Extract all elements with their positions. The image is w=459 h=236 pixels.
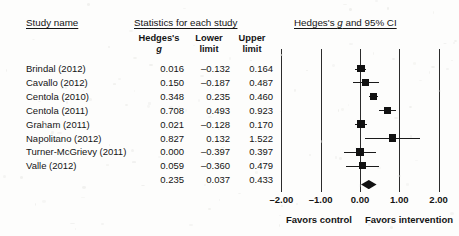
lower-limit-cell: –0.128 <box>186 119 230 130</box>
effect-marker <box>362 79 369 86</box>
lower-limit-cell: 0.235 <box>186 91 230 102</box>
plot-title-suffix: and 95% CI <box>343 17 397 28</box>
summary-diamond <box>361 175 377 184</box>
gridline <box>321 49 322 187</box>
effect-size-cell: 0.827 <box>134 133 184 144</box>
effect-marker <box>389 134 396 141</box>
forest-plot-area: –2.00–1.000.001.002.00 <box>255 40 459 236</box>
favors-intervention-label: Favors intervention <box>357 214 459 225</box>
header-statistics: Statistics for each study <box>134 17 237 28</box>
lower-limit-cell: –0.187 <box>186 77 230 88</box>
effect-size-cell: 0.000 <box>134 146 184 157</box>
plot-title-prefix: Hedges's <box>294 17 337 28</box>
axis-tick <box>439 187 440 192</box>
effect-marker <box>357 120 364 127</box>
effect-size-cell: 0.348 <box>134 91 184 102</box>
effect-size-cell: 0.059 <box>134 160 184 171</box>
study-name-cell: Cavallo (2012) <box>26 77 88 88</box>
lower-limit-cell: 0.132 <box>186 133 230 144</box>
study-name-cell: Graham (2011) <box>26 119 90 130</box>
lower-limit-cell: –0.360 <box>186 160 230 171</box>
effect-marker <box>384 107 391 114</box>
axis-tick-label: 2.00 <box>415 194 459 205</box>
header-plot-title: Hedges's g and 95% CI <box>294 17 397 28</box>
lower-limit-cell: –0.132 <box>186 63 230 74</box>
effect-marker <box>359 162 366 169</box>
forest-plot-figure: Study name Statistics for each study Hed… <box>0 0 459 236</box>
effect-marker <box>357 65 365 73</box>
effect-size-cell: 0.235 <box>134 174 184 185</box>
effect-marker <box>370 93 377 100</box>
study-name-cell: Centola (2010) <box>26 91 89 102</box>
axis-tick <box>399 187 400 192</box>
axis-tick <box>321 187 322 192</box>
study-name-cell: Turner-McGrievy (2011) <box>26 146 126 157</box>
column-head-lower-2: limit <box>188 44 230 55</box>
gridline <box>281 49 282 187</box>
lower-limit-cell: 0.493 <box>186 105 230 116</box>
effect-size-cell: 0.016 <box>134 63 184 74</box>
column-head-lower-1: Lower <box>188 33 230 44</box>
column-head-effect-italic-g: g <box>134 44 184 55</box>
study-name-cell: Centola (2011) <box>26 105 88 116</box>
effect-marker <box>356 148 363 155</box>
gridline <box>399 49 400 187</box>
study-name-cell: Napolitano (2012) <box>26 133 102 144</box>
lower-limit-cell: 0.037 <box>186 174 230 185</box>
header-study-name: Study name <box>26 17 78 28</box>
favors-control-label: Favors control <box>276 214 362 225</box>
effect-size-cell: 0.021 <box>134 119 184 130</box>
study-name-cell: Valle (2012) <box>26 160 77 171</box>
effect-size-cell: 0.708 <box>134 105 184 116</box>
study-name-cell: Brindal (2012) <box>26 63 86 74</box>
effect-size-cell: 0.150 <box>134 77 184 88</box>
axis-tick <box>360 187 361 192</box>
gridline <box>439 49 440 187</box>
column-head-effect: Hedges's <box>134 33 184 44</box>
axis-tick <box>281 187 282 192</box>
lower-limit-cell: –0.397 <box>186 146 230 157</box>
